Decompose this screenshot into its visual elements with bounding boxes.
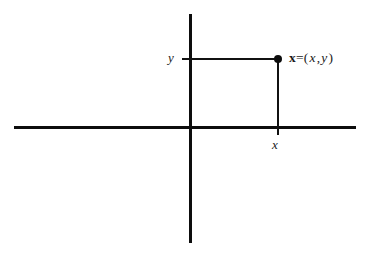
point-label: x=(x,y)	[289, 51, 333, 65]
point-first-coordinate: x	[309, 50, 315, 65]
point-close-paren: )	[328, 50, 333, 65]
point-open-paren: (	[304, 50, 309, 65]
y-coordinate-label: y	[168, 51, 174, 64]
point-equals-sign: =	[296, 50, 304, 65]
point-second-coordinate: y	[321, 50, 327, 65]
x-axis-line	[14, 126, 356, 129]
point-comma: ,	[317, 50, 321, 65]
point-marker	[274, 55, 282, 63]
point-vector-name: x	[289, 50, 296, 65]
y-axis-line	[189, 14, 192, 243]
projection-line-to-x-axis	[277, 59, 279, 135]
projection-line-to-y-axis	[182, 58, 278, 60]
x-coordinate-label: x	[272, 138, 278, 151]
coordinate-diagram: y x x=(x,y)	[0, 0, 367, 256]
